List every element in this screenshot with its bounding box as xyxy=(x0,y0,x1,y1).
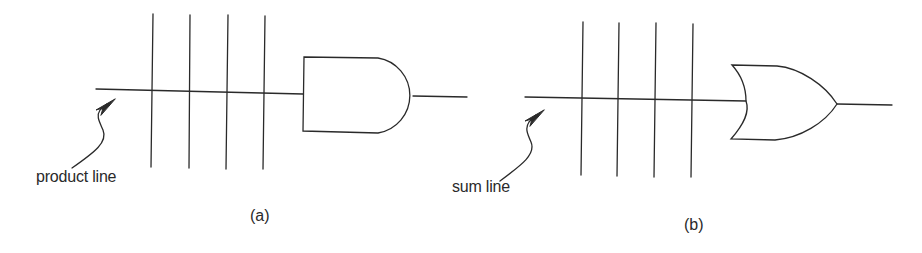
panel-b-caption: (b) xyxy=(684,216,704,234)
product-line xyxy=(96,89,303,94)
product-line-label: product line xyxy=(36,168,116,186)
and-gate-output-line xyxy=(413,96,467,97)
panel-a-caption: (a) xyxy=(250,207,270,225)
panel-a-and-gate-figure xyxy=(72,14,467,169)
panel-b-or-gate-figure xyxy=(500,22,892,181)
pla-gate-diagram: product line (a) sum line (b) xyxy=(0,0,922,253)
diagram-drawing xyxy=(0,0,922,253)
sum-line xyxy=(525,97,746,101)
or-gate-output-line xyxy=(837,104,892,105)
or-gate-icon xyxy=(731,65,837,140)
and-gate-icon xyxy=(303,57,410,133)
input-line-b-2 xyxy=(617,23,619,176)
sum-line-label: sum line xyxy=(452,178,510,196)
